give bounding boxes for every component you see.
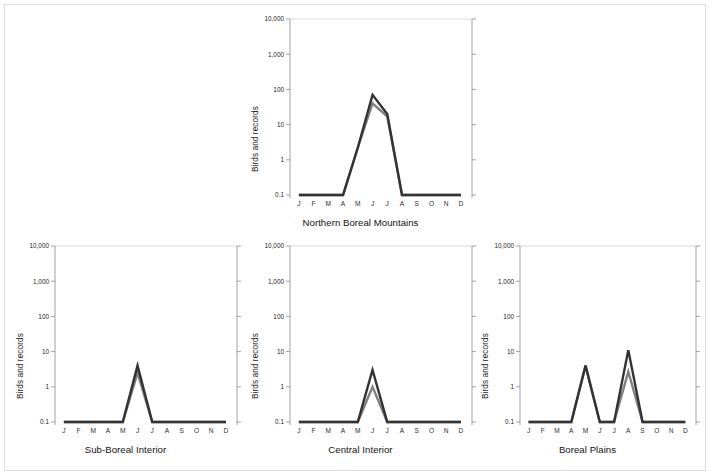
svg-text:J: J bbox=[297, 427, 300, 434]
svg-text:M: M bbox=[583, 427, 589, 434]
svg-text:O: O bbox=[654, 427, 659, 434]
chart-panel-boreal-plains: Birds and records 0.11101001,00010,000JF… bbox=[473, 239, 702, 464]
svg-text:J: J bbox=[527, 427, 530, 434]
svg-text:10: 10 bbox=[277, 121, 285, 128]
svg-text:100: 100 bbox=[38, 313, 49, 320]
svg-text:D: D bbox=[459, 427, 464, 434]
svg-text:N: N bbox=[669, 427, 674, 434]
svg-text:S: S bbox=[180, 427, 185, 434]
svg-text:F: F bbox=[541, 427, 545, 434]
line-chart-svg: 0.11101001,00010,000JFMAMJJASOND bbox=[259, 239, 478, 444]
svg-text:J: J bbox=[136, 427, 139, 434]
svg-text:10: 10 bbox=[507, 348, 515, 355]
svg-text:0.1: 0.1 bbox=[275, 191, 284, 198]
plot-area: 0.11101001,00010,000JFMAMJJASOND bbox=[24, 239, 243, 444]
plot-area: 0.11101001,00010,000JFMAMJJASOND bbox=[489, 239, 702, 444]
svg-text:N: N bbox=[209, 427, 214, 434]
svg-text:A: A bbox=[400, 200, 405, 207]
svg-text:M: M bbox=[91, 427, 97, 434]
svg-text:1,000: 1,000 bbox=[268, 278, 284, 285]
svg-text:1: 1 bbox=[280, 383, 284, 390]
svg-text:1,000: 1,000 bbox=[33, 278, 49, 285]
svg-text:10,000: 10,000 bbox=[29, 242, 49, 249]
svg-text:A: A bbox=[569, 427, 574, 434]
panel-title: Sub-Boreal Interior bbox=[8, 444, 243, 455]
svg-text:A: A bbox=[400, 427, 405, 434]
svg-text:1: 1 bbox=[45, 383, 49, 390]
svg-text:S: S bbox=[415, 200, 420, 207]
svg-text:J: J bbox=[386, 200, 389, 207]
svg-text:J: J bbox=[151, 427, 154, 434]
svg-text:M: M bbox=[355, 200, 361, 207]
svg-text:10,000: 10,000 bbox=[494, 242, 514, 249]
svg-text:J: J bbox=[297, 200, 300, 207]
svg-text:F: F bbox=[312, 200, 316, 207]
svg-text:O: O bbox=[429, 200, 434, 207]
chart-panel-central-interior: Birds and records 0.11101001,00010,000JF… bbox=[243, 239, 478, 464]
svg-text:100: 100 bbox=[273, 86, 284, 93]
svg-text:1: 1 bbox=[510, 383, 514, 390]
svg-text:0.1: 0.1 bbox=[505, 418, 514, 425]
svg-text:10: 10 bbox=[277, 348, 285, 355]
svg-text:1,000: 1,000 bbox=[498, 278, 514, 285]
svg-text:S: S bbox=[640, 427, 645, 434]
svg-text:0.1: 0.1 bbox=[275, 418, 284, 425]
svg-text:J: J bbox=[371, 427, 374, 434]
svg-text:S: S bbox=[415, 427, 420, 434]
panel-title: Central Interior bbox=[243, 444, 478, 455]
svg-text:A: A bbox=[341, 427, 346, 434]
figure-page: Birds and records 0.11101001,00010,000JF… bbox=[0, 0, 710, 475]
svg-text:M: M bbox=[326, 427, 332, 434]
chart-panel-sub-boreal-interior: Birds and records 0.11101001,00010,000JF… bbox=[8, 239, 243, 464]
svg-text:N: N bbox=[444, 200, 449, 207]
line-chart-svg: 0.11101001,00010,000JFMAMJJASOND bbox=[489, 239, 702, 444]
svg-text:J: J bbox=[62, 427, 65, 434]
svg-text:A: A bbox=[626, 427, 631, 434]
svg-text:M: M bbox=[326, 200, 332, 207]
svg-text:1: 1 bbox=[280, 156, 284, 163]
svg-text:A: A bbox=[341, 200, 346, 207]
panel-title: Boreal Plains bbox=[473, 444, 702, 455]
svg-text:J: J bbox=[598, 427, 601, 434]
svg-text:100: 100 bbox=[503, 313, 514, 320]
svg-text:F: F bbox=[312, 427, 316, 434]
svg-text:F: F bbox=[77, 427, 81, 434]
svg-text:1,000: 1,000 bbox=[268, 51, 284, 58]
svg-text:O: O bbox=[194, 427, 199, 434]
line-chart-svg: 0.11101001,00010,000JFMAMJJASOND bbox=[24, 239, 243, 444]
svg-text:100: 100 bbox=[273, 313, 284, 320]
svg-text:0.1: 0.1 bbox=[40, 418, 49, 425]
plot-area: 0.11101001,00010,000JFMAMJJASOND bbox=[259, 239, 478, 444]
svg-text:10,000: 10,000 bbox=[264, 242, 284, 249]
svg-text:D: D bbox=[683, 427, 688, 434]
svg-text:J: J bbox=[386, 427, 389, 434]
plot-area: 0.11101001,00010,000JFMAMJJASOND bbox=[259, 12, 478, 217]
svg-text:J: J bbox=[612, 427, 615, 434]
svg-text:10,000: 10,000 bbox=[264, 15, 284, 22]
svg-text:M: M bbox=[355, 427, 361, 434]
svg-text:N: N bbox=[444, 427, 449, 434]
chart-panel-northern-boreal-mountains: Birds and records 0.11101001,00010,000JF… bbox=[243, 12, 478, 237]
svg-text:O: O bbox=[429, 427, 434, 434]
svg-text:M: M bbox=[120, 427, 126, 434]
svg-text:D: D bbox=[224, 427, 229, 434]
line-chart-svg: 0.11101001,00010,000JFMAMJJASOND bbox=[259, 12, 478, 217]
svg-text:J: J bbox=[371, 200, 374, 207]
svg-text:M: M bbox=[554, 427, 560, 434]
svg-text:A: A bbox=[165, 427, 170, 434]
svg-text:D: D bbox=[459, 200, 464, 207]
svg-text:10: 10 bbox=[42, 348, 50, 355]
svg-text:A: A bbox=[106, 427, 111, 434]
panel-title: Northern Boreal Mountains bbox=[243, 217, 478, 228]
